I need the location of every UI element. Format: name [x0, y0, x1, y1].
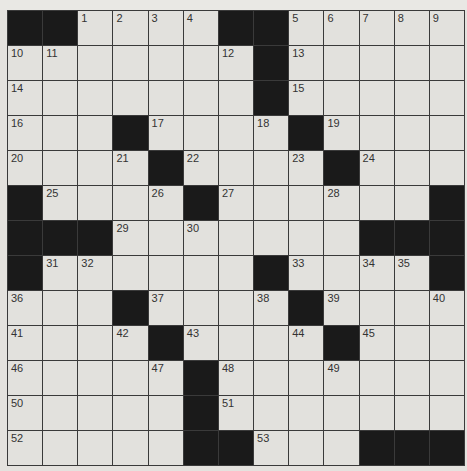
- grid-cell[interactable]: [360, 361, 394, 395]
- grid-cell[interactable]: 7: [360, 11, 394, 45]
- grid-cell[interactable]: [184, 81, 218, 115]
- grid-cell[interactable]: 17: [149, 116, 183, 150]
- grid-cell[interactable]: [43, 396, 77, 430]
- grid-cell[interactable]: 13: [289, 46, 323, 80]
- grid-cell[interactable]: 16: [8, 116, 42, 150]
- grid-cell[interactable]: [113, 81, 147, 115]
- grid-cell[interactable]: 12: [219, 46, 253, 80]
- grid-cell[interactable]: [395, 291, 429, 325]
- grid-cell[interactable]: 4: [184, 11, 218, 45]
- grid-cell[interactable]: [113, 361, 147, 395]
- grid-cell[interactable]: [360, 396, 394, 430]
- grid-cell[interactable]: [324, 46, 358, 80]
- grid-cell[interactable]: [219, 221, 253, 255]
- grid-cell[interactable]: [78, 431, 112, 465]
- grid-cell[interactable]: [149, 46, 183, 80]
- grid-cell[interactable]: [254, 151, 288, 185]
- grid-cell[interactable]: 39: [324, 291, 358, 325]
- grid-cell[interactable]: [184, 46, 218, 80]
- grid-cell[interactable]: [219, 291, 253, 325]
- grid-cell[interactable]: 27: [219, 186, 253, 220]
- grid-cell[interactable]: 33: [289, 256, 323, 290]
- grid-cell[interactable]: 48: [219, 361, 253, 395]
- grid-cell[interactable]: [149, 81, 183, 115]
- grid-cell[interactable]: 50: [8, 396, 42, 430]
- grid-cell[interactable]: 37: [149, 291, 183, 325]
- grid-cell[interactable]: [254, 396, 288, 430]
- grid-cell[interactable]: 30: [184, 221, 218, 255]
- grid-cell[interactable]: 38: [254, 291, 288, 325]
- grid-cell[interactable]: [360, 291, 394, 325]
- grid-cell[interactable]: 52: [8, 431, 42, 465]
- grid-cell[interactable]: [78, 361, 112, 395]
- grid-cell[interactable]: [430, 81, 464, 115]
- grid-cell[interactable]: [395, 151, 429, 185]
- grid-cell[interactable]: [78, 151, 112, 185]
- grid-cell[interactable]: [360, 116, 394, 150]
- grid-cell[interactable]: [184, 256, 218, 290]
- grid-cell[interactable]: [219, 326, 253, 360]
- grid-cell[interactable]: [113, 431, 147, 465]
- grid-cell[interactable]: 49: [324, 361, 358, 395]
- grid-cell[interactable]: 18: [254, 116, 288, 150]
- grid-cell[interactable]: 34: [360, 256, 394, 290]
- grid-cell[interactable]: [395, 46, 429, 80]
- grid-cell[interactable]: [254, 221, 288, 255]
- grid-cell[interactable]: 5: [289, 11, 323, 45]
- grid-cell[interactable]: [149, 431, 183, 465]
- grid-cell[interactable]: [289, 186, 323, 220]
- grid-cell[interactable]: [43, 151, 77, 185]
- grid-cell[interactable]: 29: [113, 221, 147, 255]
- grid-cell[interactable]: [113, 396, 147, 430]
- grid-cell[interactable]: 24: [360, 151, 394, 185]
- grid-cell[interactable]: [324, 431, 358, 465]
- grid-cell[interactable]: [78, 396, 112, 430]
- grid-cell[interactable]: 11: [43, 46, 77, 80]
- grid-cell[interactable]: [149, 396, 183, 430]
- grid-cell[interactable]: [289, 221, 323, 255]
- grid-cell[interactable]: [289, 431, 323, 465]
- grid-cell[interactable]: [43, 361, 77, 395]
- grid-cell[interactable]: [324, 81, 358, 115]
- grid-cell[interactable]: [78, 81, 112, 115]
- grid-cell[interactable]: 45: [360, 326, 394, 360]
- grid-cell[interactable]: 20: [8, 151, 42, 185]
- grid-cell[interactable]: [254, 361, 288, 395]
- grid-cell[interactable]: 31: [43, 256, 77, 290]
- grid-cell[interactable]: [78, 186, 112, 220]
- grid-cell[interactable]: [254, 186, 288, 220]
- grid-cell[interactable]: [324, 256, 358, 290]
- grid-cell[interactable]: 2: [113, 11, 147, 45]
- grid-cell[interactable]: [113, 256, 147, 290]
- grid-cell[interactable]: [113, 46, 147, 80]
- grid-cell[interactable]: [43, 326, 77, 360]
- grid-cell[interactable]: [395, 116, 429, 150]
- grid-cell[interactable]: 25: [43, 186, 77, 220]
- grid-cell[interactable]: [430, 361, 464, 395]
- grid-cell[interactable]: [219, 256, 253, 290]
- grid-cell[interactable]: 40: [430, 291, 464, 325]
- grid-cell[interactable]: [43, 291, 77, 325]
- grid-cell[interactable]: [78, 291, 112, 325]
- grid-cell[interactable]: [43, 81, 77, 115]
- grid-cell[interactable]: 47: [149, 361, 183, 395]
- grid-cell[interactable]: [184, 291, 218, 325]
- grid-cell[interactable]: [289, 396, 323, 430]
- grid-cell[interactable]: [430, 326, 464, 360]
- grid-cell[interactable]: [430, 116, 464, 150]
- grid-cell[interactable]: 51: [219, 396, 253, 430]
- grid-cell[interactable]: [395, 396, 429, 430]
- grid-cell[interactable]: [113, 186, 147, 220]
- grid-cell[interactable]: 26: [149, 186, 183, 220]
- grid-cell[interactable]: [219, 151, 253, 185]
- grid-cell[interactable]: 22: [184, 151, 218, 185]
- grid-cell[interactable]: [395, 186, 429, 220]
- grid-cell[interactable]: 3: [149, 11, 183, 45]
- grid-cell[interactable]: [430, 151, 464, 185]
- grid-cell[interactable]: [395, 81, 429, 115]
- grid-cell[interactable]: 15: [289, 81, 323, 115]
- grid-cell[interactable]: [78, 46, 112, 80]
- grid-cell[interactable]: 19: [324, 116, 358, 150]
- grid-cell[interactable]: [43, 116, 77, 150]
- grid-cell[interactable]: [360, 186, 394, 220]
